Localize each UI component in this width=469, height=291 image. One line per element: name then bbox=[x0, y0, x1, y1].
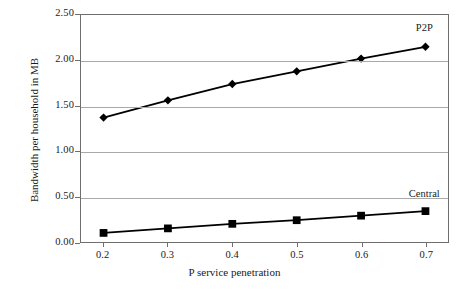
y-tick-label: 1.00 bbox=[31, 144, 74, 155]
plot-area bbox=[80, 14, 449, 243]
series-line-central bbox=[104, 211, 426, 233]
data-point-central bbox=[293, 216, 301, 224]
y-tick-mark bbox=[75, 243, 80, 244]
x-tick-label: 0.3 bbox=[161, 249, 174, 260]
x-axis-title: P service penetration bbox=[0, 266, 469, 278]
chart-plot-svg bbox=[81, 15, 448, 242]
x-tick-mark bbox=[103, 243, 104, 247]
x-tick-mark bbox=[167, 243, 168, 247]
data-point-central bbox=[228, 220, 236, 228]
data-point-central bbox=[100, 229, 108, 237]
gridline-y bbox=[81, 152, 448, 153]
data-point-p2p bbox=[421, 43, 429, 51]
y-tick-label: 0.50 bbox=[31, 190, 74, 201]
series-label-p2p: P2P bbox=[416, 22, 433, 33]
chart-figure: Bandwidth per household in MB 0.000.501.… bbox=[0, 0, 469, 291]
gridline-y bbox=[81, 107, 448, 108]
gridline-y bbox=[81, 61, 448, 62]
y-tick-mark bbox=[75, 14, 80, 15]
y-tick-label: 0.00 bbox=[31, 236, 74, 247]
y-tick-mark bbox=[75, 151, 80, 152]
y-tick-mark bbox=[75, 60, 80, 61]
y-tick-label: 1.50 bbox=[31, 99, 74, 110]
x-tick-label: 0.5 bbox=[290, 249, 303, 260]
data-point-central bbox=[164, 225, 172, 233]
data-point-p2p bbox=[228, 80, 236, 88]
x-tick-mark bbox=[232, 243, 233, 247]
y-tick-label: 2.00 bbox=[31, 53, 74, 64]
data-point-p2p bbox=[293, 67, 301, 75]
x-tick-mark bbox=[297, 243, 298, 247]
y-tick-label: 2.50 bbox=[31, 7, 74, 18]
x-tick-label: 0.6 bbox=[355, 249, 368, 260]
x-tick-label: 0.4 bbox=[225, 249, 238, 260]
y-tick-mark bbox=[75, 197, 80, 198]
data-point-central bbox=[422, 207, 430, 215]
gridline-y bbox=[81, 198, 448, 199]
x-tick-label: 0.2 bbox=[96, 249, 109, 260]
y-tick-mark bbox=[75, 106, 80, 107]
data-point-central bbox=[357, 212, 365, 220]
x-tick-label: 0.7 bbox=[420, 249, 433, 260]
series-label-central: Central bbox=[409, 188, 440, 199]
x-axis-tick-labels: 0.20.30.40.50.60.7 bbox=[0, 249, 469, 265]
y-axis-tick-labels: 0.000.501.001.502.002.50 bbox=[31, 0, 74, 291]
x-tick-mark bbox=[362, 243, 363, 247]
data-point-p2p bbox=[164, 96, 172, 104]
x-tick-mark bbox=[426, 243, 427, 247]
data-point-p2p bbox=[99, 113, 107, 121]
